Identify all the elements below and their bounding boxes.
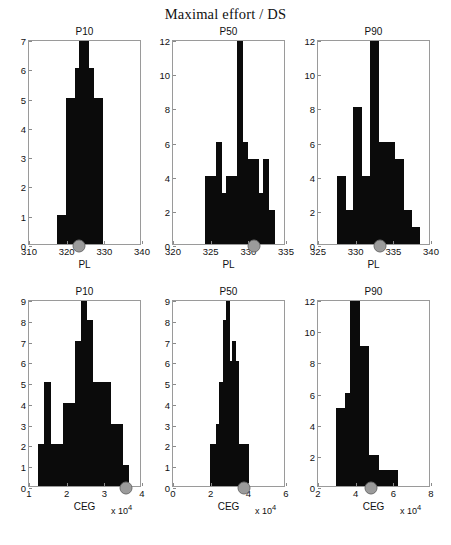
panel-p10-pl: P1001234567310320330340PL xyxy=(2,26,155,279)
y-axis-tick-label: 6 xyxy=(165,138,173,149)
y-axis-tick-mark xyxy=(29,426,32,427)
y-axis-tick-mark xyxy=(318,363,321,364)
x-axis-tick-mark xyxy=(318,483,319,486)
x-axis-tick-mark xyxy=(393,483,394,486)
y-axis-tick-label: 6 xyxy=(310,389,318,400)
y-axis-tick-mark xyxy=(173,384,176,385)
figure-title: Maximal effort / DS xyxy=(0,6,451,23)
y-axis-tick-mark xyxy=(318,75,321,76)
reference-marker xyxy=(238,482,251,495)
y-axis-tick-label: 4 xyxy=(21,123,29,134)
y-axis-tick-mark xyxy=(318,212,321,213)
x-axis-tick-mark xyxy=(67,241,68,244)
y-axis-tick-mark xyxy=(173,322,176,323)
y-axis-tick-mark xyxy=(173,426,176,427)
x-axis-tick-label: 330 xyxy=(348,244,364,257)
y-axis-tick-mark xyxy=(29,467,32,468)
x-axis-tick-label: 340 xyxy=(423,244,439,257)
y-axis-tick-label: 9 xyxy=(165,296,173,307)
x-axis-tick-label: 4 xyxy=(353,486,358,499)
x-axis-label: PL xyxy=(172,259,285,270)
x-axis-tick-label: 330 xyxy=(96,244,112,257)
y-axis-tick-label: 3 xyxy=(21,420,29,431)
y-axis-tick-mark xyxy=(173,212,176,213)
reference-marker xyxy=(72,240,85,253)
y-axis-tick-label: 2 xyxy=(165,206,173,217)
x-axis-tick-label: 335 xyxy=(385,244,401,257)
y-axis-tick-label: 6 xyxy=(21,358,29,369)
plot-area: 01234567891234 xyxy=(28,300,141,487)
y-axis-tick-mark xyxy=(29,158,32,159)
y-axis-tick-label: 7 xyxy=(21,36,29,47)
histogram-bar xyxy=(269,210,275,244)
y-axis-tick-label: 8 xyxy=(310,358,318,369)
y-axis-tick-mark xyxy=(173,144,176,145)
y-axis-tick-mark xyxy=(318,178,321,179)
y-axis-tick-label: 9 xyxy=(21,296,29,307)
y-axis-tick-label: 10 xyxy=(304,327,318,338)
y-axis-tick-label: 5 xyxy=(165,379,173,390)
histogram-bar xyxy=(245,444,249,486)
x-axis-tick-mark xyxy=(67,483,68,486)
x-axis-tick-label: 310 xyxy=(21,244,37,257)
y-axis-tick-label: 7 xyxy=(165,337,173,348)
y-axis-tick-label: 2 xyxy=(310,206,318,217)
y-axis-tick-label: 10 xyxy=(304,70,318,81)
y-axis-tick-mark xyxy=(173,405,176,406)
axis-exponent-label: x 104 xyxy=(111,503,132,516)
y-axis-tick-mark xyxy=(29,70,32,71)
panel-p50-pl: P50024681012320325330335PL xyxy=(146,26,299,279)
x-axis-tick-mark xyxy=(393,241,394,244)
reference-marker xyxy=(373,240,386,253)
x-axis-tick-label: 3 xyxy=(102,486,107,499)
x-axis-label: PL xyxy=(28,259,141,270)
panel-p90-ceg: P900246810122468CEGx 104 xyxy=(291,286,444,521)
x-axis-tick-label: 4 xyxy=(139,486,144,499)
x-axis-tick-label: 2 xyxy=(64,486,69,499)
plot-area: 024681012320325330335 xyxy=(172,40,285,245)
y-axis-tick-mark xyxy=(173,109,176,110)
y-axis-tick-mark xyxy=(173,343,176,344)
reference-marker xyxy=(364,482,377,495)
y-axis-tick-mark xyxy=(29,405,32,406)
histogram-bars xyxy=(173,41,284,244)
x-axis-label: PL xyxy=(317,259,430,270)
y-axis-tick-label: 12 xyxy=(159,36,173,47)
x-axis-tick-mark xyxy=(29,241,30,244)
y-axis-tick-label: 1 xyxy=(21,462,29,473)
histogram-bars xyxy=(318,301,429,486)
y-axis-tick-mark xyxy=(318,301,321,302)
panel-title: P10 xyxy=(28,286,141,297)
plot-area: 0246810122468 xyxy=(317,300,430,487)
reference-marker xyxy=(248,240,261,253)
figure-container: Maximal effort / DS P1001234567310320330… xyxy=(0,0,451,545)
panel-title: P50 xyxy=(172,286,285,297)
x-axis-tick-label: 0 xyxy=(170,486,175,499)
y-axis-tick-label: 6 xyxy=(165,358,173,369)
axis-exponent-label: x 104 xyxy=(400,503,421,516)
reference-marker xyxy=(120,482,133,495)
y-axis-tick-label: 2 xyxy=(21,441,29,452)
panel-p50-ceg: P5001234567890246CEGx 104 xyxy=(146,286,299,521)
y-axis-tick-label: 8 xyxy=(165,316,173,327)
y-axis-tick-label: 4 xyxy=(21,399,29,410)
x-axis-tick-label: 1 xyxy=(26,486,31,499)
histogram-bars xyxy=(29,301,140,486)
y-axis-tick-mark xyxy=(29,100,32,101)
x-axis-tick-label: 2 xyxy=(208,486,213,499)
y-axis-tick-label: 4 xyxy=(165,172,173,183)
x-axis-tick-mark xyxy=(104,483,105,486)
y-axis-tick-mark xyxy=(173,363,176,364)
axis-exponent-label: x 104 xyxy=(255,503,276,516)
y-axis-tick-label: 6 xyxy=(310,138,318,149)
y-axis-tick-mark xyxy=(29,301,32,302)
y-axis-tick-label: 2 xyxy=(310,451,318,462)
x-axis-tick-label: 325 xyxy=(310,244,326,257)
panel-title: P90 xyxy=(317,286,430,297)
x-axis-tick-mark xyxy=(286,483,287,486)
y-axis-tick-label: 4 xyxy=(310,420,318,431)
y-axis-tick-mark xyxy=(173,178,176,179)
x-axis-tick-mark xyxy=(431,241,432,244)
y-axis-tick-mark xyxy=(173,301,176,302)
y-axis-tick-label: 1 xyxy=(165,462,173,473)
